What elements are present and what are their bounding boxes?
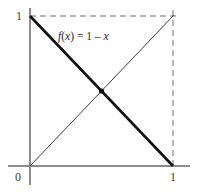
y-axis-tick-label-1: 1 bbox=[16, 10, 22, 22]
intersection-point-marker bbox=[99, 88, 104, 93]
function-annotation-label: f(x) = 1 – x bbox=[58, 31, 109, 43]
origin-tick-label-0: 0 bbox=[15, 171, 21, 183]
x-axis-tick-label-1: 1 bbox=[170, 171, 176, 183]
function-equals-expression: = 1 – bbox=[74, 30, 104, 42]
plot-canvas bbox=[0, 0, 200, 192]
function-plot-figure: 1 0 1 f(x) = 1 – x bbox=[0, 0, 200, 192]
function-term-x: x bbox=[104, 30, 109, 42]
